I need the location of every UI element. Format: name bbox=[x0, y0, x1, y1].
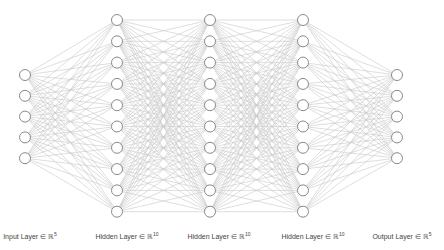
neuron-node-output-5 bbox=[392, 153, 403, 164]
layer-label-output: Output Layer ∈ ℝ5 bbox=[372, 231, 431, 241]
connection-edge bbox=[25, 20, 117, 137]
neuron-node-hidden-3-9 bbox=[298, 185, 309, 196]
layer-label-text: Hidden Layer ∈ ℝ bbox=[187, 233, 245, 240]
layer-dimension: 5 bbox=[54, 231, 57, 237]
neuron-node-input-5 bbox=[20, 153, 31, 164]
connection-edge bbox=[303, 63, 397, 75]
neuron-node-hidden-2-4 bbox=[205, 78, 216, 89]
neuron-node-input-3 bbox=[20, 111, 31, 122]
neuron-node-hidden-1-2 bbox=[112, 36, 123, 47]
neuron-node-hidden-2-10 bbox=[205, 206, 216, 217]
neuron-node-output-3 bbox=[392, 111, 403, 122]
neuron-node-hidden-2-8 bbox=[205, 164, 216, 175]
neuron-node-hidden-1-3 bbox=[112, 57, 123, 68]
neuron-node-hidden-3-7 bbox=[298, 142, 309, 153]
neuron-node-hidden-3-2 bbox=[298, 36, 309, 47]
connection-edge bbox=[303, 158, 397, 212]
layer-label-text: Hidden Layer ∈ ℝ bbox=[95, 233, 153, 240]
neuron-node-hidden-2-2 bbox=[205, 36, 216, 47]
neuron-node-hidden-1-7 bbox=[112, 142, 123, 153]
neural-network-diagram bbox=[0, 0, 444, 250]
connection-edge bbox=[25, 158, 117, 212]
neuron-node-hidden-3-4 bbox=[298, 78, 309, 89]
neuron-node-output-2 bbox=[392, 90, 403, 101]
neuron-node-hidden-3-5 bbox=[298, 100, 309, 111]
neuron-node-hidden-1-6 bbox=[112, 121, 123, 132]
connection-edge bbox=[303, 137, 397, 211]
neuron-node-input-4 bbox=[20, 132, 31, 143]
connection-edge bbox=[25, 158, 117, 190]
layer-label-text: Input Layer ∈ ℝ bbox=[3, 233, 54, 240]
connection-edge bbox=[25, 20, 117, 96]
connection-edge bbox=[25, 20, 117, 75]
neuron-node-hidden-1-5 bbox=[112, 100, 123, 111]
connection-edge bbox=[25, 158, 117, 169]
neuron-node-hidden-1-1 bbox=[112, 15, 123, 26]
neuron-node-hidden-3-3 bbox=[298, 57, 309, 68]
neuron-node-input-2 bbox=[20, 90, 31, 101]
connection-edge bbox=[25, 41, 117, 158]
layer-dimension: 10 bbox=[245, 231, 251, 237]
connection-edge bbox=[25, 20, 117, 117]
neuron-node-input-1 bbox=[20, 70, 31, 81]
layer-label-text: Output Layer ∈ ℝ bbox=[372, 233, 428, 240]
neuron-node-hidden-2-3 bbox=[205, 57, 216, 68]
neuron-node-hidden-2-6 bbox=[205, 121, 216, 132]
neuron-node-hidden-1-8 bbox=[112, 164, 123, 175]
layer-label-hidden-3: Hidden Layer ∈ ℝ10 bbox=[281, 231, 344, 241]
layer-label-input: Input Layer ∈ ℝ5 bbox=[3, 231, 57, 241]
connection-edge bbox=[303, 20, 397, 75]
neuron-node-hidden-3-1 bbox=[298, 15, 309, 26]
layer-label-text: Hidden Layer ∈ ℝ bbox=[281, 233, 339, 240]
neuron-node-hidden-1-9 bbox=[112, 185, 123, 196]
neuron-node-hidden-3-6 bbox=[298, 121, 309, 132]
neuron-node-hidden-2-1 bbox=[205, 15, 216, 26]
connection-edges bbox=[25, 20, 397, 212]
layer-label-hidden-1: Hidden Layer ∈ ℝ10 bbox=[95, 231, 158, 241]
layer-label-hidden-2: Hidden Layer ∈ ℝ10 bbox=[187, 231, 250, 241]
neuron-node-hidden-1-10 bbox=[112, 206, 123, 217]
connection-edge bbox=[25, 148, 117, 158]
connection-edge bbox=[303, 41, 397, 75]
neuron-node-output-4 bbox=[392, 132, 403, 143]
neuron-node-hidden-2-9 bbox=[205, 185, 216, 196]
layer-dimension: 5 bbox=[429, 231, 432, 237]
neuron-node-hidden-3-8 bbox=[298, 164, 309, 175]
layer-dimension: 10 bbox=[153, 231, 159, 237]
neuron-node-hidden-1-4 bbox=[112, 78, 123, 89]
layer-dimension: 10 bbox=[339, 231, 345, 237]
neuron-node-output-1 bbox=[392, 70, 403, 81]
neuron-node-hidden-3-10 bbox=[298, 206, 309, 217]
neuron-node-hidden-2-5 bbox=[205, 100, 216, 111]
neuron-node-hidden-2-7 bbox=[205, 142, 216, 153]
